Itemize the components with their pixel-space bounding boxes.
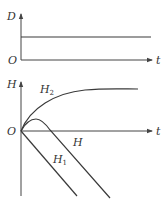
h1-label: H1 (52, 153, 67, 167)
bottom-x-axis-label: t (156, 125, 161, 138)
top-origin-label: O (8, 54, 17, 67)
top-x-axis-label: t (156, 54, 161, 67)
h1-line (21, 131, 77, 196)
bottom-graph: H O t H2 H H1 (6, 78, 161, 198)
diagram-canvas: D O t H O t H2 H H1 (0, 0, 168, 210)
h2-label: H2 (39, 83, 54, 97)
top-graph: D O t (6, 10, 161, 67)
h2-curve (21, 89, 138, 131)
top-y-axis-label: D (6, 10, 16, 23)
bottom-origin-label: O (7, 125, 16, 138)
bottom-y-axis-label: H (6, 78, 17, 91)
h-label: H (72, 136, 83, 149)
